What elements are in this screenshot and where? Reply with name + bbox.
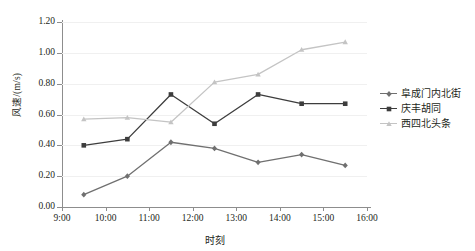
data-point-marker xyxy=(125,137,130,142)
data-point-marker xyxy=(343,101,348,106)
x-tick-mark xyxy=(367,207,368,211)
legend-label: 阜成门内北街 xyxy=(401,88,461,99)
data-point-marker xyxy=(386,91,391,97)
data-point-marker xyxy=(256,92,261,97)
series-layer xyxy=(62,22,367,207)
y-tick-label: 0.20 xyxy=(14,171,55,181)
legend-label: 庆丰胡同 xyxy=(401,103,441,114)
x-tick-mark xyxy=(106,207,107,211)
x-tick-mark xyxy=(280,207,281,211)
y-tick-label: 1.20 xyxy=(14,17,55,27)
x-tick-label: 12:00 xyxy=(173,213,213,224)
data-point-marker xyxy=(212,121,217,126)
y-tick-label: 0.40 xyxy=(14,140,55,150)
series-2 xyxy=(81,92,347,147)
data-point-marker xyxy=(386,121,391,126)
x-tick-label: 14:00 xyxy=(260,213,300,224)
data-point-marker xyxy=(212,146,217,152)
legend-swatch xyxy=(380,88,397,99)
series-3 xyxy=(81,39,348,124)
y-tick-label: 0.60 xyxy=(14,110,55,120)
wind-speed-line-chart: 风速/(m/s) 0.000.200.400.600.801.001.20 9:… xyxy=(0,0,475,251)
x-tick-mark xyxy=(149,207,150,211)
legend-marker-diamond-icon xyxy=(385,90,393,98)
y-tick-label: 0.00 xyxy=(14,202,55,212)
x-tick-label: 9:00 xyxy=(42,213,82,224)
data-point-marker xyxy=(343,162,348,168)
x-tick-label: 11:00 xyxy=(129,213,169,224)
data-point-marker xyxy=(299,152,304,158)
legend: 阜成门内北街庆丰胡同西四北头条 xyxy=(380,86,475,131)
data-point-marker xyxy=(81,143,86,148)
legend-item[interactable]: 阜成门内北街 xyxy=(380,86,475,101)
legend-swatch xyxy=(380,103,397,114)
x-tick-label: 15:00 xyxy=(303,213,343,224)
y-tick-label: 1.00 xyxy=(14,48,55,58)
x-tick-mark xyxy=(193,207,194,211)
x-axis-title: 时刻 xyxy=(55,232,375,247)
series-1 xyxy=(81,139,348,197)
series-line xyxy=(84,94,345,145)
y-axis-title: 风速/(m/s) xyxy=(9,47,23,143)
legend-item[interactable]: 西四北头条 xyxy=(380,116,475,131)
x-tick-mark xyxy=(62,207,63,211)
x-tick-label: 16:00 xyxy=(347,213,387,224)
x-tick-label: 10:00 xyxy=(86,213,126,224)
x-tick-mark xyxy=(323,207,324,211)
x-tick-mark xyxy=(236,207,237,211)
legend-item[interactable]: 庆丰胡同 xyxy=(380,101,475,116)
data-point-marker xyxy=(169,92,174,97)
legend-swatch xyxy=(380,118,397,129)
legend-marker-triangle-icon xyxy=(385,120,393,128)
data-point-marker xyxy=(386,106,391,111)
data-point-marker xyxy=(255,159,260,165)
legend-marker-square-icon xyxy=(385,105,393,113)
legend-label: 西四北头条 xyxy=(401,118,451,129)
y-tick-label: 0.80 xyxy=(14,79,55,89)
data-point-marker xyxy=(81,192,86,198)
data-point-marker xyxy=(299,101,304,106)
x-tick-label: 13:00 xyxy=(216,213,256,224)
